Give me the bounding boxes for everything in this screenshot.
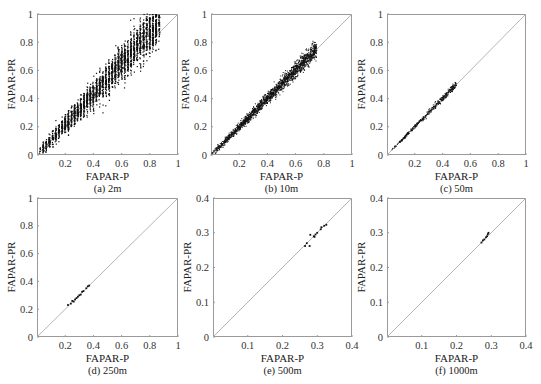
y-tick-label: 0.2 — [370, 262, 383, 273]
plot-area: 0.10.20.30.400.10.20.30.4 — [387, 198, 526, 337]
subplot-caption: (e) 500m — [213, 365, 352, 376]
scatter-panel-a: 0.20.40.60.8100.20.40.60.81FAPAR-PRFAPAR… — [37, 14, 178, 155]
y-tick-label: 1 — [28, 9, 33, 20]
subplot-caption: (d) 250m — [37, 365, 178, 376]
y-axis-label: FAPAR-PR — [355, 44, 367, 124]
data-points — [211, 41, 318, 156]
x-tick-label: 1 — [175, 158, 180, 169]
scatter-panel-c: 0.20.40.60.8100.20.40.60.81FAPAR-PRFAPAR… — [387, 14, 526, 155]
y-tick-label: 0 — [202, 150, 207, 161]
y-tick-label: 0 — [28, 150, 33, 161]
x-axis-label: FAPAR-P — [37, 170, 178, 182]
subplot-caption: (c) 50m — [387, 183, 526, 194]
y-tick-label: 0.2 — [194, 121, 207, 132]
x-tick-label: 0.3 — [311, 340, 324, 351]
x-axis-label: FAPAR-P — [213, 352, 352, 364]
y-axis-label: FAPAR-PR — [355, 227, 367, 307]
x-tick-label: 0.6 — [464, 158, 477, 169]
x-tick-label: 0.4 — [345, 340, 359, 351]
y-tick-label: 0.4 — [20, 93, 34, 104]
y-axis-label: FAPAR-PR — [179, 44, 191, 124]
x-tick-label: 0.2 — [59, 158, 72, 169]
one-to-one-line — [37, 198, 178, 337]
x-tick-label: 0.1 — [415, 340, 428, 351]
x-axis-label: FAPAR-P — [211, 170, 352, 182]
y-tick-label: 1 — [202, 9, 207, 20]
y-tick-label: 1 — [28, 193, 33, 204]
y-axis-label: FAPAR-PR — [181, 227, 193, 307]
x-axis-label: FAPAR-P — [387, 170, 526, 182]
x-tick-label: 1 — [349, 158, 354, 169]
x-tick-label: 1 — [175, 340, 180, 351]
plot-area: 0.20.40.60.8100.20.40.60.81 — [37, 14, 178, 155]
x-tick-label: 0.6 — [115, 158, 128, 169]
x-tick-label: 0.8 — [143, 340, 156, 351]
one-to-one-line — [213, 198, 352, 337]
x-tick-label: 0.4 — [87, 158, 101, 169]
x-axis-label: FAPAR-P — [387, 352, 526, 364]
plot-area: 0.20.40.60.8100.20.40.60.81 — [37, 198, 178, 337]
y-tick-label: 0.2 — [20, 304, 33, 315]
y-tick-label: 0.4 — [370, 193, 384, 204]
x-tick-label: 0.8 — [143, 158, 156, 169]
subplot-caption: (b) 10m — [211, 183, 352, 194]
subplot-caption: (f) 1000m — [387, 365, 526, 376]
y-tick-label: 1 — [378, 9, 383, 20]
y-tick-label: 0.3 — [370, 227, 383, 238]
y-tick-label: 0.4 — [20, 276, 34, 287]
plot-area: 0.20.40.60.8100.20.40.60.81 — [211, 14, 352, 155]
x-tick-label: 0.6 — [115, 340, 128, 351]
y-tick-label: 0.2 — [20, 121, 33, 132]
scatter-panel-e: 0.10.20.30.400.10.20.30.4FAPAR-PRFAPAR-P… — [213, 198, 352, 337]
y-tick-label: 0.8 — [370, 37, 383, 48]
y-tick-label: 0.2 — [196, 262, 209, 273]
x-tick-label: 0.3 — [485, 340, 498, 351]
x-tick-label: 0.4 — [436, 158, 450, 169]
x-tick-label: 1 — [523, 158, 528, 169]
y-tick-label: 0.6 — [370, 65, 383, 76]
one-to-one-line — [387, 198, 526, 337]
y-tick-label: 0 — [28, 332, 33, 343]
plot-area: 0.20.40.60.8100.20.40.60.81 — [387, 14, 526, 155]
scatter-panel-f: 0.10.20.30.400.10.20.30.4FAPAR-PRFAPAR-P… — [387, 198, 526, 337]
x-tick-label: 0.1 — [241, 340, 254, 351]
y-tick-label: 0 — [204, 332, 209, 343]
x-tick-label: 0.2 — [450, 340, 463, 351]
subplot-caption: (a) 2m — [37, 183, 178, 194]
scatter-panel-d: 0.20.40.60.8100.20.40.60.81FAPAR-PRFAPAR… — [37, 198, 178, 337]
x-tick-label: 0.8 — [492, 158, 505, 169]
y-tick-label: 0.4 — [194, 93, 208, 104]
y-tick-label: 0.6 — [20, 248, 33, 259]
x-axis-label: FAPAR-P — [37, 352, 178, 364]
y-axis-label: FAPAR-PR — [5, 227, 17, 307]
x-tick-label: 0.2 — [276, 340, 289, 351]
data-points — [481, 232, 490, 244]
y-tick-label: 0.4 — [370, 93, 384, 104]
x-tick-label: 0.4 — [261, 158, 275, 169]
y-tick-label: 0.3 — [196, 227, 209, 238]
x-tick-label: 0.8 — [317, 158, 330, 169]
y-tick-label: 0.6 — [194, 65, 207, 76]
data-points — [67, 285, 90, 306]
y-tick-label: 0.1 — [196, 297, 209, 308]
y-tick-label: 0.8 — [20, 37, 33, 48]
data-points — [304, 224, 327, 247]
y-axis-label: FAPAR-PR — [5, 44, 17, 124]
y-tick-label: 0.6 — [20, 65, 33, 76]
y-tick-label: 0.4 — [196, 193, 210, 204]
y-tick-label: 0 — [378, 332, 383, 343]
y-tick-label: 0.2 — [370, 121, 383, 132]
y-tick-label: 0.1 — [370, 297, 383, 308]
scatter-panel-b: 0.20.40.60.8100.20.40.60.81FAPAR-PRFAPAR… — [211, 14, 352, 155]
x-tick-label: 0.6 — [289, 158, 302, 169]
y-tick-label: 0.8 — [194, 37, 207, 48]
data-points — [39, 14, 160, 154]
x-tick-label: 0.4 — [87, 340, 101, 351]
x-tick-label: 0.2 — [408, 158, 421, 169]
x-tick-label: 0.2 — [233, 158, 246, 169]
data-points — [392, 82, 457, 150]
x-tick-label: 0.2 — [59, 340, 72, 351]
y-tick-label: 0.8 — [20, 220, 33, 231]
y-tick-label: 0 — [378, 150, 383, 161]
x-tick-label: 0.4 — [519, 340, 533, 351]
